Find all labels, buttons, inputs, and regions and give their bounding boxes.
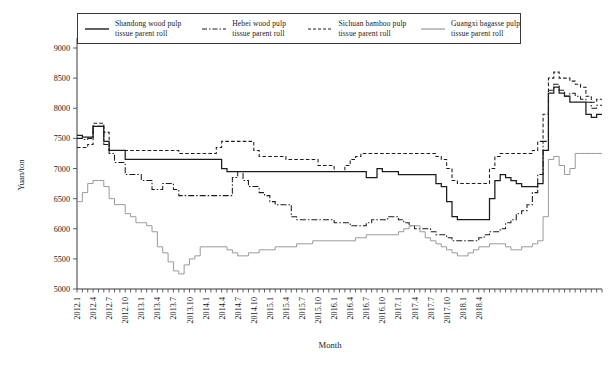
y-tick-label: 9000 bbox=[54, 44, 70, 53]
y-axis-title: Yuan/ton bbox=[16, 159, 26, 191]
x-tick-label: 2014.1 bbox=[202, 297, 211, 320]
x-tick-label: 2015.1 bbox=[266, 297, 275, 320]
x-tick-label: 2012.10 bbox=[121, 297, 130, 324]
price-trend-chart: Shandong wood pulp tissue parent roll He… bbox=[0, 0, 616, 369]
x-tick-label: 2018.4 bbox=[475, 297, 484, 320]
x-tick-label: 2013.10 bbox=[186, 297, 195, 324]
y-tick-label: 8000 bbox=[54, 104, 70, 113]
x-tick-label: 2015.4 bbox=[282, 297, 291, 320]
data-series-group bbox=[77, 72, 602, 274]
x-tick-label: 2012.4 bbox=[89, 297, 98, 320]
y-tick-label: 5000 bbox=[54, 285, 70, 294]
x-tick-label: 2016.10 bbox=[378, 297, 387, 324]
y-tick-label: 8500 bbox=[54, 74, 70, 83]
y-tick-label: 5500 bbox=[54, 255, 70, 264]
x-tick-label: 2016.1 bbox=[330, 297, 339, 320]
x-axis-title: Month bbox=[319, 340, 343, 350]
x-tick-label: 2015.10 bbox=[314, 297, 323, 324]
x-tick-label: 2013.1 bbox=[137, 297, 146, 320]
x-tick-label: 2018.1 bbox=[459, 297, 468, 320]
x-tick-label: 2014.4 bbox=[218, 297, 227, 320]
x-tick-label: 2017.7 bbox=[427, 297, 436, 320]
series-line-hebei bbox=[77, 84, 602, 241]
x-tick-label: 2015.7 bbox=[298, 297, 307, 320]
y-tick-label: 7500 bbox=[54, 134, 70, 143]
x-axis: 2012.12012.42012.72012.102013.12013.4201… bbox=[73, 289, 602, 324]
x-tick-label: 2012.7 bbox=[105, 297, 114, 320]
x-tick-label: 2014.7 bbox=[234, 297, 243, 320]
x-tick-label: 2014.10 bbox=[250, 297, 259, 324]
x-tick-label: 2017.4 bbox=[411, 297, 420, 320]
y-tick-label: 6500 bbox=[54, 195, 70, 204]
x-tick-label: 2016.7 bbox=[362, 297, 371, 320]
x-tick-label: 2012.1 bbox=[73, 297, 82, 320]
y-axis: 500055006000650070007500800085009000 bbox=[54, 38, 77, 294]
y-tick-label: 7000 bbox=[54, 165, 70, 174]
series-line-sichuan bbox=[77, 72, 602, 183]
x-tick-label: 2013.4 bbox=[153, 297, 162, 320]
x-tick-label: 2016.4 bbox=[346, 297, 355, 320]
plot-area: 500055006000650070007500800085009000 201… bbox=[0, 0, 616, 369]
x-tick-label: 2017.1 bbox=[394, 297, 403, 320]
x-tick-label: 2017.10 bbox=[443, 297, 452, 324]
y-tick-label: 6000 bbox=[54, 225, 70, 234]
x-tick-label: 2013.7 bbox=[169, 297, 178, 320]
